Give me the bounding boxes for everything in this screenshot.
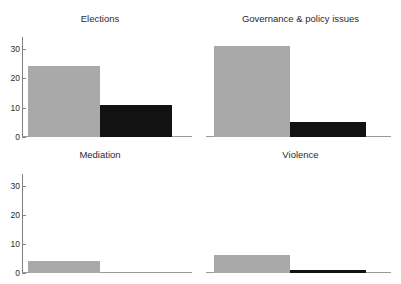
bar-group: [28, 173, 173, 273]
plot-area: 0102030: [0, 26, 200, 148]
y-axis-tick: [22, 215, 26, 216]
panel-elections: Elections 0102030: [0, 6, 200, 148]
bar-series-2: [100, 105, 172, 137]
panel-mediation: Mediation 0102030: [0, 148, 200, 284]
faceted-bar-chart-figure: Elections 0102030 Governance & policy is…: [0, 0, 401, 284]
y-axis-tick-label: 0: [2, 133, 20, 141]
bar-group: [214, 37, 382, 137]
panel-governance-policy-issues: Governance & policy issues: [200, 6, 401, 148]
bar-series-2: [290, 270, 366, 273]
bar-group: [214, 173, 382, 273]
y-axis-tick-label: 0: [2, 269, 20, 277]
y-axis-spine: [22, 174, 23, 273]
panel-title: Governance & policy issues: [200, 13, 401, 25]
plot-area: 0102030: [0, 163, 200, 284]
bar-series-1: [28, 261, 100, 273]
panel-title: Elections: [0, 13, 200, 25]
plot-area: [200, 26, 401, 148]
bar-series-2: [290, 122, 366, 137]
y-axis-tick: [22, 49, 26, 50]
y-axis-tick-label: 20: [2, 211, 20, 219]
bar-series-1: [214, 255, 290, 273]
y-axis-tick: [22, 108, 26, 109]
y-axis-tick-label: 10: [2, 104, 20, 112]
y-axis-tick-label: 30: [2, 45, 20, 53]
y-axis-tick: [22, 78, 26, 79]
panel-violence: Violence: [200, 148, 401, 284]
y-axis-tick: [22, 137, 26, 138]
y-axis-tick-label: 20: [2, 74, 20, 82]
panel-title: Mediation: [0, 149, 200, 161]
y-axis-tick: [22, 244, 26, 245]
y-axis-tick-label: 10: [2, 240, 20, 248]
y-axis-tick: [22, 186, 26, 187]
y-axis-tick-label: 30: [2, 182, 20, 190]
bar-group: [28, 37, 173, 137]
y-axis-spine: [22, 37, 23, 137]
clipped-suptitle: [0, 0, 401, 1]
panel-title: Violence: [200, 149, 401, 161]
bar-series-1: [28, 66, 100, 137]
y-axis-tick: [22, 273, 26, 274]
plot-area: [200, 163, 401, 284]
bar-series-1: [214, 46, 290, 137]
